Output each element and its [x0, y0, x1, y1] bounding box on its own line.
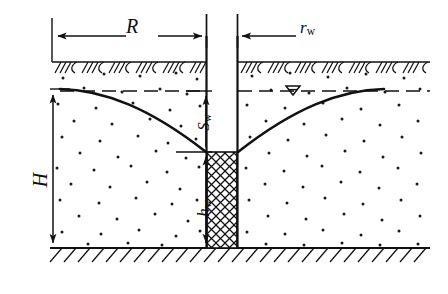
dimension-arrow-H: [50, 89, 70, 243]
figure-canvas: [0, 0, 448, 294]
ground-surface-tufts: [55, 62, 428, 73]
label-aquifer-thickness: H: [30, 173, 50, 187]
label-drawdown: Sw: [195, 114, 214, 131]
dimension-arrow-rw: [238, 14, 297, 48]
well-drawdown-figure: R rw H Sw hw: [0, 0, 448, 294]
label-radius-of-influence: R: [126, 16, 138, 36]
label-well-radius: rw: [300, 19, 315, 38]
impervious-base-hatching: [50, 248, 430, 262]
drawdown-curve-right: [238, 89, 384, 152]
well-bore-interior: [206, 36, 238, 152]
drawdown-curve-left: [60, 89, 206, 152]
label-water-depth-in-well: hw: [195, 200, 214, 217]
